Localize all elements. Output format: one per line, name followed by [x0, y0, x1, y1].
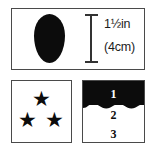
vertical-dimension-bar-icon — [85, 14, 98, 63]
dimension-bar-line — [90, 14, 92, 63]
star-icon: ★ — [32, 89, 51, 110]
fill-level-panel: 1 2 3 — [82, 80, 145, 143]
measurement-metric-label: (4cm) — [104, 36, 156, 59]
measurement-imperial-label: 1½in — [104, 13, 156, 36]
dimension-labels: 1½in (4cm) — [104, 13, 156, 59]
star-rating-panel: ★ ★ ★ — [11, 80, 72, 143]
level-value: 3 — [83, 128, 144, 140]
level-value: 1 — [83, 88, 144, 100]
figure-root: 1½in (4cm) ★ ★ ★ 1 2 3 — [0, 0, 159, 143]
filled-oval-shape-icon — [34, 14, 65, 63]
dimension-cap-bottom — [85, 61, 98, 63]
star-icon: ★ — [18, 110, 37, 131]
level-value: 2 — [83, 109, 144, 121]
star-icon: ★ — [45, 110, 64, 131]
size-reference-panel: 1½in (4cm) — [11, 8, 145, 70]
